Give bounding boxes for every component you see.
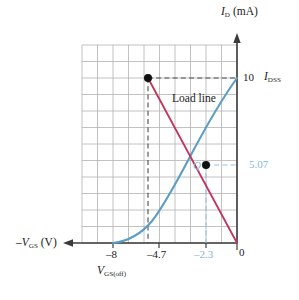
x-axis-arrowhead xyxy=(63,239,73,246)
vgs-off-symbol: V xyxy=(97,264,104,276)
y-axis-label-unit: (mA) xyxy=(233,5,258,17)
axis-lines xyxy=(70,40,237,243)
y-axis-label-subscript: D xyxy=(225,11,230,19)
grid xyxy=(82,45,237,243)
vgs-off-label: VGS(off) xyxy=(97,264,126,278)
x-axis-label-unit: (V) xyxy=(41,236,57,248)
load-line-label: Load line xyxy=(172,92,216,104)
idss-value-label: 10 xyxy=(243,71,254,83)
marker-q-point xyxy=(202,161,210,169)
marker-idss-point xyxy=(144,74,152,82)
idss-subscript: DSS xyxy=(268,76,281,84)
x-tick-label--4.7: –4.7 xyxy=(147,248,166,260)
figure-canvas: ID (mA) –VGS (V) –8 –4.7 –2.3 0 VGS(off)… xyxy=(0,0,299,300)
idq-value-label: 5.07 xyxy=(249,158,268,170)
x-axis-label-subscript: GS xyxy=(29,242,38,250)
x-tick-label--2.3: –2.3 xyxy=(194,248,213,260)
x-axis-label-symbol: –V xyxy=(16,236,29,248)
idss-symbol-label: IDSS xyxy=(264,70,281,84)
y-axis-label: ID (mA) xyxy=(221,5,258,19)
q-point-label: Q xyxy=(193,159,201,171)
x-axis-ticks xyxy=(113,243,237,250)
vgs-off-subscript: GS(off) xyxy=(104,270,126,278)
x-axis-label: –VGS (V) xyxy=(16,236,57,250)
x-tick-label-0: 0 xyxy=(239,246,245,258)
x-tick-label--8: –8 xyxy=(106,248,117,260)
y-axis-arrowhead xyxy=(233,33,240,43)
